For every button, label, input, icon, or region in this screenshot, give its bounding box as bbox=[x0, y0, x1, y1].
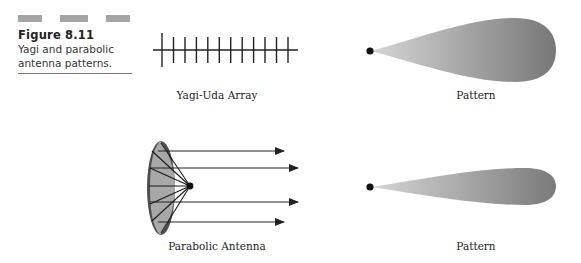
yagi-pattern-lobe bbox=[371, 18, 556, 82]
yagi-label: Yagi-Uda Array bbox=[176, 89, 258, 101]
yagi-pattern-origin-dot bbox=[366, 47, 373, 54]
parabolic-pattern-label: Pattern bbox=[456, 240, 496, 252]
antenna-diagram: Yagi-Uda Array Pattern Parabolic Antenna… bbox=[0, 0, 581, 263]
parabolic-pattern-origin-dot bbox=[366, 183, 373, 190]
feed-point-dot bbox=[187, 183, 194, 190]
yagi-pattern-label: Pattern bbox=[456, 89, 496, 101]
parabolic-label: Parabolic Antenna bbox=[168, 240, 266, 252]
parabolic-antenna bbox=[147, 141, 298, 235]
yagi-uda-array bbox=[153, 33, 298, 67]
dish-surface bbox=[150, 141, 175, 235]
parabolic-pattern-lobe bbox=[371, 168, 556, 205]
